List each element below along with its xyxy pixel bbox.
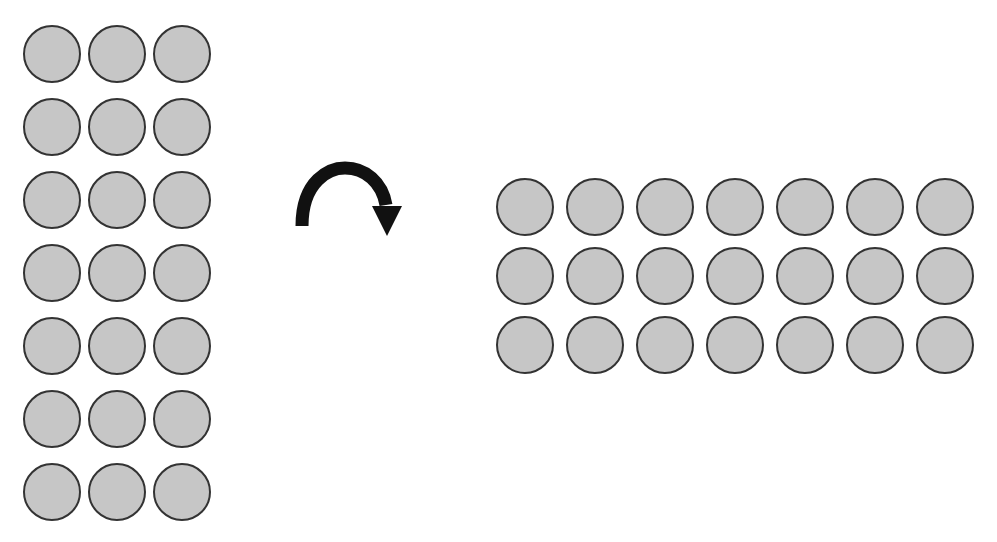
circle bbox=[496, 316, 554, 374]
circle bbox=[153, 25, 211, 83]
left-circle-array-7x3 bbox=[23, 25, 211, 521]
circle bbox=[846, 178, 904, 236]
circle bbox=[636, 247, 694, 305]
circle bbox=[776, 316, 834, 374]
circle bbox=[23, 25, 81, 83]
circle bbox=[706, 178, 764, 236]
circle bbox=[776, 247, 834, 305]
circle bbox=[153, 98, 211, 156]
circle bbox=[88, 98, 146, 156]
circle bbox=[23, 98, 81, 156]
circle bbox=[846, 316, 904, 374]
circle bbox=[566, 178, 624, 236]
circle bbox=[23, 244, 81, 302]
circle bbox=[88, 171, 146, 229]
circle bbox=[636, 178, 694, 236]
circle bbox=[566, 247, 624, 305]
circle bbox=[916, 247, 974, 305]
circle bbox=[153, 244, 211, 302]
circle bbox=[88, 25, 146, 83]
circle bbox=[23, 171, 81, 229]
circle bbox=[776, 178, 834, 236]
circle bbox=[153, 463, 211, 521]
circle bbox=[88, 244, 146, 302]
circle bbox=[496, 247, 554, 305]
right-circle-array-3x7 bbox=[496, 178, 974, 374]
circle bbox=[88, 463, 146, 521]
circle bbox=[706, 247, 764, 305]
curved-arrow-clockwise-icon bbox=[290, 160, 405, 240]
circle bbox=[153, 390, 211, 448]
circle bbox=[153, 171, 211, 229]
circle bbox=[88, 317, 146, 375]
circle bbox=[846, 247, 904, 305]
circle bbox=[566, 316, 624, 374]
circle bbox=[153, 317, 211, 375]
circle bbox=[916, 178, 974, 236]
circle bbox=[23, 317, 81, 375]
circle bbox=[916, 316, 974, 374]
circle bbox=[636, 316, 694, 374]
circle bbox=[706, 316, 764, 374]
circle bbox=[496, 178, 554, 236]
circle bbox=[23, 390, 81, 448]
circle bbox=[23, 463, 81, 521]
circle bbox=[88, 390, 146, 448]
